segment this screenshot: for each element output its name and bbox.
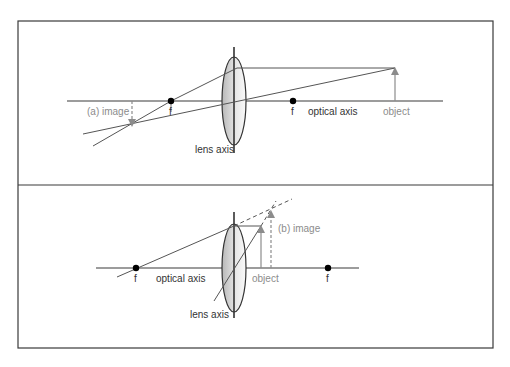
panel-a: f f optical axis object (a) image lens a… [67,47,443,155]
lens-axis-label: lens axis [190,309,229,320]
focal-label-right: f [326,273,329,284]
lens-axis-label: lens axis [195,144,234,155]
lens-diagram: f f optical axis object (a) image lens a… [0,0,510,367]
object-label: object [383,106,410,117]
optical-axis-label: optical axis [156,273,205,284]
focal-point-right [325,265,331,271]
focal-point-left [133,265,139,271]
optical-axis-label: optical axis [308,106,357,117]
focal-ray-extension [234,199,292,226]
panel-b: f f optical axis object (b) image lens a… [96,199,359,320]
focal-label-right: f [291,106,294,117]
focal-label-left: f [169,106,172,117]
image-label: (b) image [278,223,321,234]
focal-point-left [168,98,174,104]
focal-point-right [290,98,296,104]
image-label: (a) image [87,106,130,117]
focal-label-left: f [134,273,137,284]
central-ray-extension [261,201,276,226]
object-label: object [252,273,279,284]
